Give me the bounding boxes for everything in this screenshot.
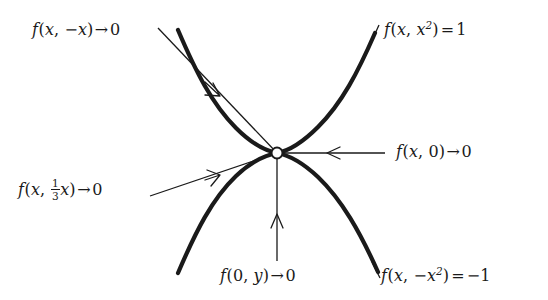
label-equals-sign: = [449,266,467,285]
label-close-paren: ) [69,180,75,199]
fraction-one-third: 13 [51,178,60,201]
label-limit-value: 0 [462,142,472,161]
label-limit-value: 0 [286,266,296,285]
label-value-minus-sign: − [467,266,481,285]
label-minus-sign: − [413,266,427,285]
label-arrow-glyph: → [269,266,286,285]
label-comma: , [403,266,413,285]
label-arg-x: x [409,142,418,161]
label-f-x-negative-x: f(x, −x)→0 [32,22,120,38]
label-comma: , [54,20,64,39]
label-arg-x: x [45,20,54,39]
label-arg-x: 0 [233,266,243,285]
label-exponent: 2 [436,265,443,277]
label-arg-second: x [427,266,436,285]
label-arrow-glyph: → [76,180,93,199]
label-f-x-one-third-x: f(x, 13x)→0 [18,178,102,201]
label-comma: , [243,266,253,285]
limit-paths-figure: f(x, −x)→0 f(x, x2)=1 f(x, 0)→0 f(x, 13x… [0,0,548,300]
label-comma: , [418,142,428,161]
label-arg-second: x [416,20,425,39]
label-arg-x: x [394,266,403,285]
label-f-x-negative-x-squared: f(x, −x2)=−1 [381,268,490,284]
curve-y-equals-x-squared [178,30,375,153]
label-close-paren: ) [432,20,438,39]
label-f-x-zero: f(x, 0)→0 [396,144,472,160]
label-minus-sign: − [64,20,78,39]
label-arg-second: x [78,20,87,39]
label-arg-second: 0 [428,142,438,161]
label-comma: , [40,180,50,199]
fraction-denominator: 3 [51,191,60,202]
label-equals-sign: = [439,20,457,39]
label-limit-value: 0 [92,180,102,199]
label-limit-value: 1 [480,266,490,285]
fraction-numerator: 1 [51,178,60,189]
path-line-y-equals-one-third-x [150,153,277,196]
label-arrow-glyph: → [445,142,462,161]
label-arg-x: x [31,180,40,199]
label-arg-x: x [397,20,406,39]
label-f-zero-y: f(0, y)→0 [220,268,296,284]
label-limit-value: 1 [456,20,466,39]
label-limit-value: 0 [110,20,120,39]
label-f-x-x-squared: f(x, x2)=1 [384,22,466,38]
leader-line-top-right [369,25,379,47]
label-arg-second: x [60,180,69,199]
label-arrow-glyph: → [93,20,110,39]
label-comma: , [406,20,416,39]
open-circle-at-origin [272,148,283,159]
label-arg-second: y [254,266,263,285]
